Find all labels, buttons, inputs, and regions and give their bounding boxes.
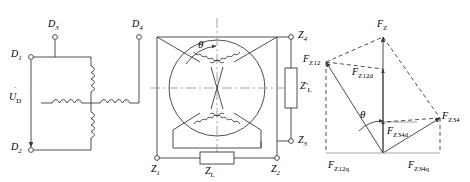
phasor-solid-vectors	[326, 37, 440, 153]
left-coil-vertical-top	[91, 66, 95, 92]
right-theta-arc	[359, 121, 383, 131]
label-source-ud: ˙ UD	[9, 89, 21, 105]
rotor-winding-sw	[194, 113, 224, 124]
rotor-winding-se	[210, 113, 240, 124]
terminal-d2[interactable]	[29, 148, 34, 153]
terminal-z2[interactable]	[275, 156, 280, 161]
label-fz12q: FZ12q	[328, 159, 349, 173]
left-coil-horizontal-left	[52, 100, 82, 104]
diagram-svg	[0, 0, 470, 182]
label-fz12: FZ12	[303, 53, 320, 67]
terminal-z1[interactable]	[155, 156, 160, 161]
left-coil-horizontal-right	[100, 100, 130, 104]
terminal-d1[interactable]	[29, 55, 34, 60]
label-d3: D3	[48, 18, 59, 32]
left-circuit-wires	[31, 40, 139, 150]
label-fz34: FZ34	[442, 110, 459, 124]
label-fz34q: FZ34q	[408, 159, 429, 173]
label-z2: Z2	[271, 163, 280, 177]
label-z4: Z4	[298, 29, 307, 43]
label-d4: D4	[132, 18, 143, 32]
impedance-zl-prime-box	[285, 68, 297, 108]
terminal-d4[interactable]	[137, 35, 142, 40]
label-theta-middle: θ	[198, 38, 203, 50]
figure-canvas: D1 D2 D3 D4 ˙ UD Z1 Z2 Z3 Z4 ZL Z′L θ FZ…	[0, 0, 470, 182]
impedance-zl-box	[200, 152, 234, 164]
label-fz12d: FZ12d	[352, 66, 373, 80]
label-theta-right: θ	[360, 108, 365, 120]
label-d2: D2	[11, 141, 22, 155]
terminal-z4[interactable]	[289, 35, 294, 40]
label-z1: Z1	[151, 163, 160, 177]
terminal-z3[interactable]	[289, 139, 294, 144]
label-impedance-zl: ZL	[205, 165, 215, 179]
label-d1: D1	[11, 48, 22, 62]
label-fz34d: FZ34d	[387, 125, 408, 139]
label-impedance-zl-prime: Z′L	[300, 80, 312, 94]
terminal-d3[interactable]	[53, 35, 58, 40]
label-fz: FZ	[377, 18, 387, 32]
label-z3: Z3	[298, 134, 307, 148]
left-coil-vertical-bottom	[91, 112, 95, 138]
